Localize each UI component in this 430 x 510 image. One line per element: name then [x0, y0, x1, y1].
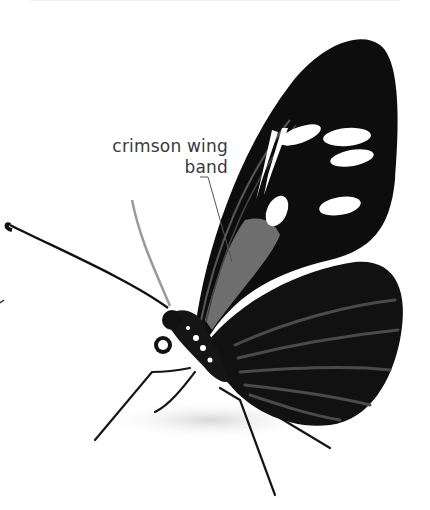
head: [162, 310, 182, 330]
antenna-left: [10, 225, 168, 308]
butterfly-image: [0, 0, 430, 510]
butterfly-illustration: crimson wing band: [0, 0, 430, 510]
top-border: [30, 0, 400, 1]
annotation-line-1: crimson wing: [88, 136, 228, 157]
annotation-label: crimson wing band: [88, 136, 228, 178]
annotation-line-2: band: [88, 157, 228, 178]
